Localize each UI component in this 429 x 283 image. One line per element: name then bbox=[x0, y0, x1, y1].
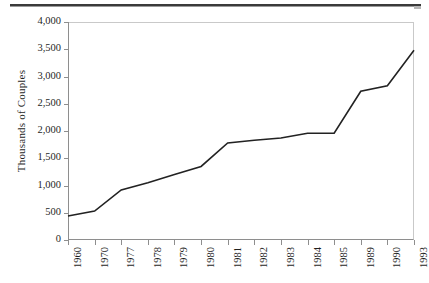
figure-page: Thousands of Couples 05001,0001,5002,000… bbox=[0, 0, 429, 283]
series-layer bbox=[0, 0, 429, 283]
line-chart: Thousands of Couples 05001,0001,5002,000… bbox=[0, 0, 429, 283]
data-line bbox=[68, 50, 414, 216]
